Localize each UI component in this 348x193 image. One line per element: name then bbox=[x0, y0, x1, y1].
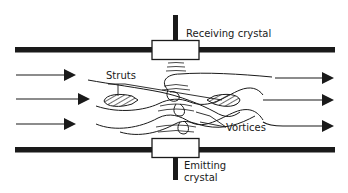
receiving-crystal-label: Receiving crystal bbox=[186, 28, 271, 39]
flowmeter-diagram: Receiving crystal Struts Vortices Emitti… bbox=[0, 0, 348, 193]
outflow-arrows bbox=[263, 72, 334, 132]
strut-left bbox=[104, 94, 138, 106]
struts-label: Struts bbox=[106, 70, 136, 81]
inflow-arrows bbox=[16, 69, 90, 130]
emitting-crystal-label-line2: crystal bbox=[184, 172, 218, 183]
strut-right bbox=[207, 94, 240, 106]
vortices-label: Vortices bbox=[226, 122, 266, 133]
emitting-crystal-label-line1: Emitting bbox=[184, 160, 226, 171]
